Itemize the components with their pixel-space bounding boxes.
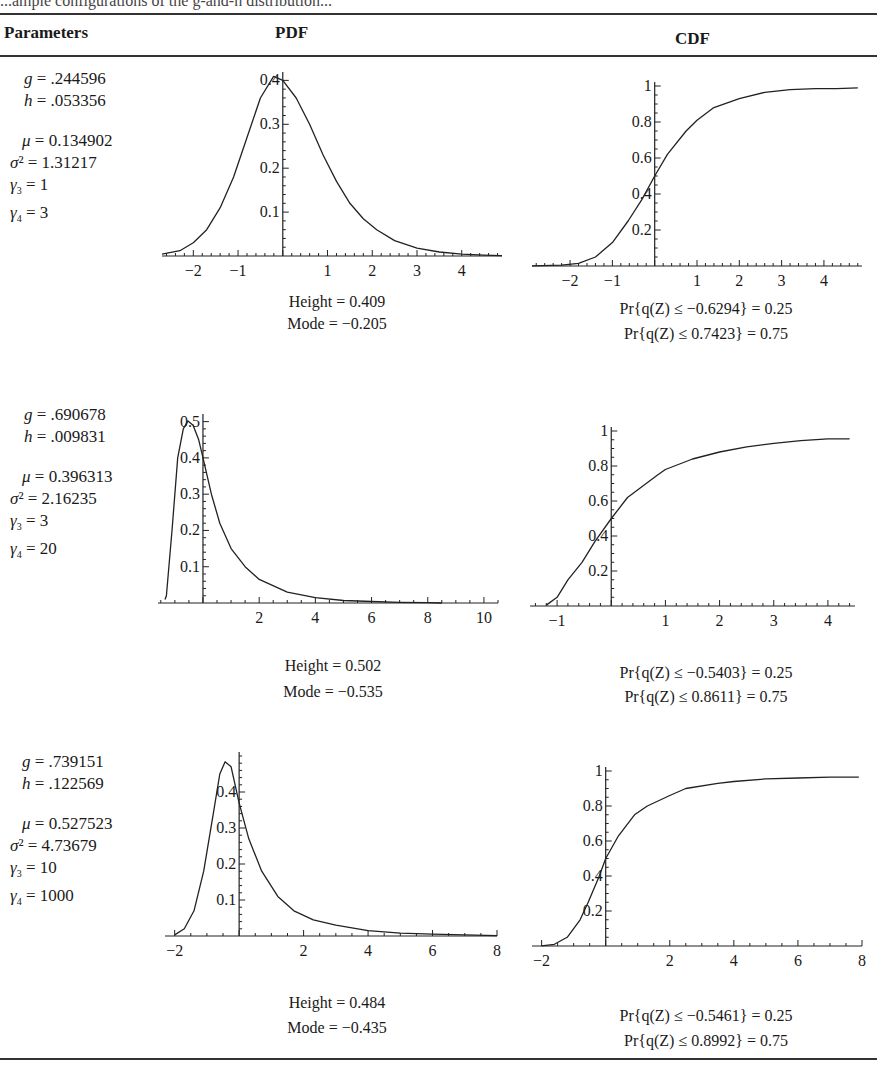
svg-text:0.8: 0.8	[588, 457, 608, 474]
svg-text:0.6: 0.6	[588, 492, 608, 509]
svg-text:0.5: 0.5	[180, 413, 200, 430]
svg-text:−2: −2	[185, 262, 202, 279]
svg-text:4: 4	[824, 612, 832, 629]
header-parameters: Parameters	[4, 23, 88, 43]
param-gamma3: γ3 = 3	[10, 510, 112, 538]
param-h: h = .122569	[10, 773, 112, 795]
pdf-height-row-1: Height = 0.409	[272, 293, 402, 311]
param-h: h = .009831	[10, 426, 112, 448]
svg-text:1: 1	[644, 77, 652, 94]
params-row-1: g = .244596 h = .053356 μ = 0.134902 σ² …	[10, 68, 112, 231]
svg-text:2: 2	[735, 272, 743, 289]
param-g: g = .690678	[10, 404, 112, 426]
pdf-height-row-3: Height = 0.484	[272, 994, 402, 1012]
param-sigma2: σ² = 4.73679	[10, 835, 112, 857]
svg-text:−2: −2	[166, 942, 183, 959]
cdf-q25-row-1: Pr{q(Z) ≤ −0.6294} = 0.25	[596, 300, 816, 318]
svg-text:0.8: 0.8	[632, 113, 652, 130]
svg-text:2: 2	[255, 609, 263, 626]
param-mu: μ = 0.527523	[10, 813, 112, 835]
svg-text:3: 3	[778, 272, 786, 289]
svg-text:4: 4	[311, 609, 319, 626]
pdf-mode-row-2: Mode = −0.535	[268, 683, 398, 701]
svg-text:8: 8	[493, 942, 501, 959]
svg-text:0.1: 0.1	[260, 203, 280, 220]
svg-text:6: 6	[794, 952, 802, 969]
header-rule	[0, 55, 877, 57]
svg-text:0.4: 0.4	[180, 449, 200, 466]
svg-text:0.4: 0.4	[216, 783, 236, 800]
svg-text:4: 4	[730, 952, 738, 969]
param-gamma3: γ3 = 1	[10, 174, 112, 202]
cdf-plot-row-2: −112340.20.40.60.81	[530, 425, 855, 630]
svg-text:2: 2	[300, 942, 308, 959]
svg-text:0.6: 0.6	[632, 149, 652, 166]
cdf-q25-row-2: Pr{q(Z) ≤ −0.5403} = 0.25	[596, 664, 816, 682]
svg-text:0.4: 0.4	[260, 71, 280, 88]
param-g: g = .739151	[10, 751, 112, 773]
cdf-plot-row-3: −224680.20.40.60.81	[532, 765, 862, 970]
header-pdf: PDF	[275, 23, 308, 43]
svg-text:0.2: 0.2	[588, 562, 608, 579]
param-gamma4: γ4 = 1000	[10, 885, 112, 913]
svg-text:3: 3	[770, 612, 778, 629]
svg-text:3: 3	[413, 262, 421, 279]
svg-text:0.3: 0.3	[216, 819, 236, 836]
svg-text:4: 4	[820, 272, 828, 289]
cdf-q25-row-3: Pr{q(Z) ≤ −0.5461} = 0.25	[596, 1007, 816, 1025]
param-h: h = .053356	[10, 90, 112, 112]
svg-text:0.1: 0.1	[216, 891, 236, 908]
param-sigma2: σ² = 2.16235	[10, 488, 112, 510]
svg-text:1: 1	[595, 762, 603, 779]
svg-text:1: 1	[693, 272, 701, 289]
svg-text:2: 2	[666, 952, 674, 969]
svg-text:−1: −1	[549, 612, 566, 629]
svg-text:0.3: 0.3	[260, 115, 280, 132]
svg-text:−1: −1	[604, 272, 621, 289]
svg-text:0.2: 0.2	[583, 902, 603, 919]
svg-text:8: 8	[424, 609, 432, 626]
svg-text:6: 6	[368, 609, 376, 626]
svg-text:−1: −1	[230, 262, 247, 279]
svg-text:0.4: 0.4	[588, 527, 608, 544]
svg-text:−2: −2	[533, 952, 550, 969]
pdf-mode-row-3: Mode = −0.435	[272, 1019, 402, 1037]
svg-text:1: 1	[324, 262, 332, 279]
svg-text:4: 4	[364, 942, 372, 959]
svg-text:0.2: 0.2	[632, 221, 652, 238]
svg-text:0.3: 0.3	[180, 485, 200, 502]
svg-text:0.8: 0.8	[583, 797, 603, 814]
svg-text:1: 1	[661, 612, 669, 629]
svg-text:2: 2	[368, 262, 376, 279]
svg-text:0.2: 0.2	[260, 159, 280, 176]
params-row-3: g = .739151 h = .122569 μ = 0.527523 σ² …	[10, 751, 112, 914]
param-gamma4: γ4 = 20	[10, 538, 112, 566]
pdf-height-row-2: Height = 0.502	[268, 657, 398, 675]
param-gamma3: γ3 = 10	[10, 857, 112, 885]
pdf-plot-row-3: −224680.10.20.30.4	[165, 750, 497, 960]
svg-text:0.2: 0.2	[216, 855, 236, 872]
param-sigma2: σ² = 1.31217	[10, 152, 112, 174]
table-bottom-rule	[0, 1058, 877, 1060]
caption-fragment: ...ample configurations of the g-and-h d…	[0, 0, 332, 10]
svg-text:8: 8	[858, 952, 866, 969]
cdf-q75-row-3: Pr{q(Z) ≤ 0.8992} = 0.75	[596, 1032, 816, 1050]
params-row-2: g = .690678 h = .009831 μ = 0.396313 σ² …	[10, 404, 112, 567]
pdf-plot-row-2: 2468100.10.20.30.40.5	[158, 412, 498, 627]
cdf-plot-row-1: −2−112340.20.40.60.81	[532, 80, 862, 290]
pdf-mode-row-1: Mode = −0.205	[272, 315, 402, 333]
svg-text:0.1: 0.1	[180, 558, 200, 575]
svg-text:4: 4	[458, 262, 466, 279]
param-g: g = .244596	[10, 68, 112, 90]
svg-text:−2: −2	[562, 272, 579, 289]
param-mu: μ = 0.396313	[10, 466, 112, 488]
svg-text:0.6: 0.6	[583, 832, 603, 849]
header-cdf: CDF	[675, 29, 710, 49]
svg-text:1: 1	[600, 422, 608, 439]
svg-text:0.2: 0.2	[180, 521, 200, 538]
param-mu: μ = 0.134902	[10, 130, 112, 152]
svg-text:2: 2	[716, 612, 724, 629]
svg-text:6: 6	[429, 942, 437, 959]
pdf-plot-row-1: −2−112340.10.20.30.4	[162, 70, 502, 280]
cdf-q75-row-1: Pr{q(Z) ≤ 0.7423} = 0.75	[596, 325, 816, 343]
